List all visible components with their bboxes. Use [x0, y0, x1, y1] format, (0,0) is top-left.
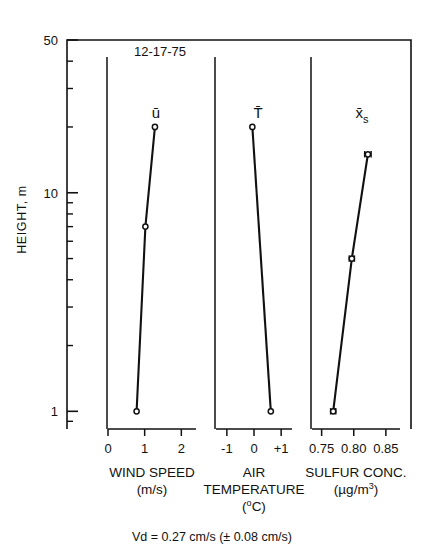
- figure-caption: Vd = 0.27 cm/s (± 0.08 cm/s): [132, 530, 292, 544]
- x-axis-tick-label: 0.80: [341, 441, 366, 456]
- x-axis-title: SULFUR CONC.: [305, 465, 406, 480]
- x-axis-tick-label: 0.85: [373, 441, 398, 456]
- series-symbol-sulfur-concentration: x̄s: [356, 104, 370, 125]
- y-axis-tick-label: 50: [44, 33, 58, 48]
- x-axis-tick-label: 1: [141, 441, 148, 456]
- data-line-air-temperature: [252, 127, 270, 411]
- x-axis-title: AIR: [243, 465, 266, 480]
- data-line-wind-speed: [137, 127, 155, 411]
- data-point-sulfur-concentration: [365, 152, 370, 157]
- data-point-wind-speed: [143, 224, 148, 229]
- x-axis-tick-label: 0.75: [309, 441, 334, 456]
- x-axis-tick-label: +1: [274, 441, 289, 456]
- x-axis-tick-label: 0: [104, 441, 111, 456]
- x-axis-title: WIND SPEED: [109, 465, 195, 480]
- data-point-sulfur-concentration: [331, 409, 336, 414]
- x-axis-tick-label: 0: [250, 441, 257, 456]
- data-point-wind-speed: [134, 409, 139, 414]
- data-line-sulfur-concentration: [333, 154, 368, 411]
- plot-frame: [67, 40, 411, 429]
- x-axis-title: TEMPERATURE: [203, 482, 304, 497]
- data-point-air-temperature: [250, 124, 255, 129]
- y-axis-tick-label: 10: [44, 186, 58, 201]
- x-axis-tick-label: 2: [178, 441, 185, 456]
- data-point-sulfur-concentration: [349, 256, 354, 261]
- x-axis-units: (µg/m3): [334, 481, 378, 497]
- profile-chart: 50101HEIGHT, m12-17-75012ūWIND SPEED(m/s…: [0, 0, 425, 559]
- data-point-wind-speed: [152, 124, 157, 129]
- figure-container: 50101HEIGHT, m12-17-75012ūWIND SPEED(m/s…: [0, 0, 425, 559]
- data-point-air-temperature: [268, 409, 273, 414]
- series-symbol-wind-speed: ū: [152, 104, 160, 121]
- y-axis-tick-label: 1: [51, 404, 58, 419]
- x-axis-units: (m/s): [137, 482, 168, 497]
- y-axis-title: HEIGHT, m: [15, 185, 29, 254]
- x-axis-units: (oC): [242, 498, 266, 514]
- series-symbol-air-temperature: T̄: [253, 104, 262, 121]
- date-annotation: 12-17-75: [134, 44, 186, 59]
- x-axis-tick-label: -1: [221, 441, 233, 456]
